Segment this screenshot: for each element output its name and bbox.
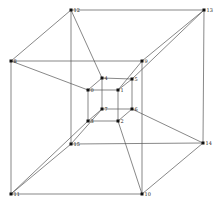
node-2 xyxy=(117,120,120,123)
node-label: 15 xyxy=(74,141,80,147)
edge-11-15 xyxy=(11,144,71,194)
node-4 xyxy=(101,77,104,80)
edge-8-12 xyxy=(11,10,71,61)
nodes-group: 0123456789101112131415 xyxy=(10,7,213,197)
node-11 xyxy=(10,193,13,196)
graph-svg: 0123456789101112131415 xyxy=(0,0,217,202)
node-label: 13 xyxy=(207,7,213,13)
node-15 xyxy=(70,143,73,146)
node-label: 8 xyxy=(14,58,17,64)
edge-10-14 xyxy=(142,143,203,194)
edge-9-13 xyxy=(142,10,204,61)
node-7 xyxy=(101,108,104,111)
edge-1-9 xyxy=(118,61,142,90)
node-label: 6 xyxy=(135,106,138,112)
node-label: 3 xyxy=(91,118,94,124)
node-9 xyxy=(141,60,144,63)
node-label: 1 xyxy=(121,87,124,93)
edge-0-8 xyxy=(11,61,88,90)
node-3 xyxy=(87,120,90,123)
node-label: 10 xyxy=(145,191,151,197)
node-label: 14 xyxy=(206,140,212,146)
edge-3-11 xyxy=(11,121,88,194)
node-14 xyxy=(202,142,205,145)
node-label: 9 xyxy=(145,58,148,64)
node-1 xyxy=(117,89,120,92)
edge-14-15 xyxy=(71,143,203,144)
tesseract-diagram: 0123456789101112131415 xyxy=(0,0,217,202)
edge-5-13 xyxy=(132,10,204,79)
node-label: 12 xyxy=(74,7,80,13)
node-label: 11 xyxy=(14,191,20,197)
edge-7-15 xyxy=(71,109,102,144)
node-label: 0 xyxy=(91,87,94,93)
node-12 xyxy=(70,9,73,12)
node-10 xyxy=(141,193,144,196)
edge-6-14 xyxy=(132,109,203,143)
edge-2-10 xyxy=(118,121,142,194)
edges-group xyxy=(11,10,204,194)
node-label: 5 xyxy=(135,76,138,82)
node-6 xyxy=(131,108,134,111)
edge-13-14 xyxy=(203,10,204,143)
node-13 xyxy=(203,9,206,12)
edge-4-12 xyxy=(71,10,102,78)
node-label: 4 xyxy=(105,75,108,81)
node-5 xyxy=(131,78,134,81)
node-label: 7 xyxy=(105,106,108,112)
node-0 xyxy=(87,89,90,92)
node-label: 2 xyxy=(121,118,124,124)
node-8 xyxy=(10,60,13,63)
